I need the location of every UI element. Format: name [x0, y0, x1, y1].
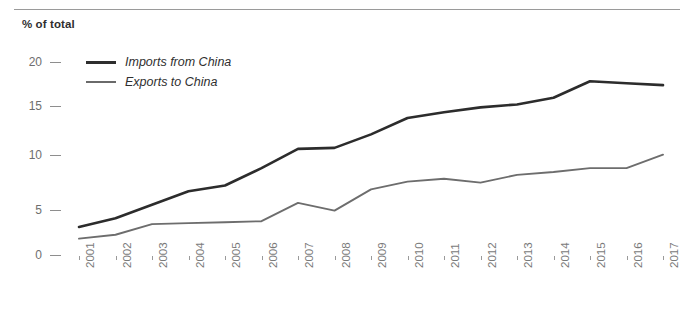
x-tick-label-2001: 2001	[84, 242, 96, 268]
x-tick-label-2002: 2002	[121, 242, 133, 268]
x-tick-label-2006: 2006	[267, 242, 279, 268]
x-tick-label-2005: 2005	[230, 242, 242, 268]
x-tick-dash-2009	[371, 256, 372, 260]
x-tick-dash-2015	[590, 256, 591, 260]
x-tick-dash-2003	[152, 256, 153, 260]
x-tick-label-2004: 2004	[194, 242, 206, 268]
series-line-imports	[79, 81, 663, 227]
x-tick-dash-2002	[116, 256, 117, 260]
x-tick-label-2013: 2013	[522, 242, 534, 268]
x-tick-dash-2013	[517, 256, 518, 260]
x-tick-label-2010: 2010	[413, 242, 425, 268]
x-tick-label-2012: 2012	[486, 242, 498, 268]
chart-container: % of total 20 15 10 5 0 Imports from Chi…	[0, 0, 690, 311]
x-tick-label-2016: 2016	[632, 242, 644, 268]
x-tick-dash-2004	[189, 256, 190, 260]
x-tick-dash-2011	[444, 256, 445, 260]
x-tick-label-2007: 2007	[303, 242, 315, 268]
x-tick-label-2011: 2011	[449, 243, 461, 268]
x-tick-label-2003: 2003	[157, 242, 169, 268]
x-tick-dash-2017	[663, 256, 664, 260]
x-tick-dash-2007	[298, 256, 299, 260]
series-line-exports	[79, 155, 663, 239]
x-tick-dash-2001	[79, 256, 80, 260]
x-tick-label-2017: 2017	[668, 242, 680, 268]
x-tick-dash-2016	[627, 256, 628, 260]
x-tick-dash-2010	[408, 256, 409, 260]
x-tick-label-2009: 2009	[376, 242, 388, 268]
x-tick-label-2015: 2015	[595, 242, 607, 268]
x-tick-label-2014: 2014	[559, 242, 571, 268]
x-tick-dash-2008	[335, 256, 336, 260]
x-tick-dash-2012	[481, 256, 482, 260]
x-tick-dash-2005	[225, 256, 226, 260]
x-tick-dash-2014	[554, 256, 555, 260]
x-tick-label-2008: 2008	[340, 242, 352, 268]
x-tick-dash-2006	[262, 256, 263, 260]
